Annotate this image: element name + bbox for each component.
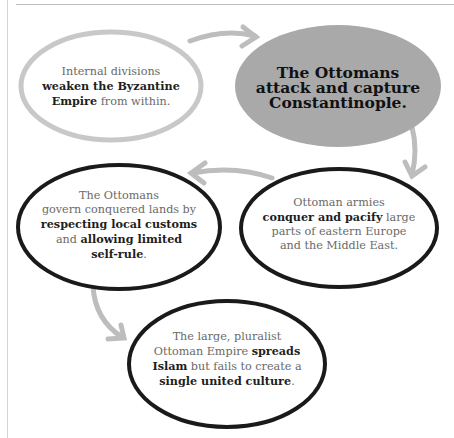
node-5-bold-2: Islam bbox=[152, 359, 187, 373]
node-3-bold-1: conquer and pacify bbox=[263, 210, 383, 224]
node-3-line-2: large bbox=[382, 211, 415, 224]
node-4-bold-2: allowing limited bbox=[80, 232, 182, 246]
node-byzantine-divisions: Internal divisions weaken the Byzantine … bbox=[14, 20, 208, 146]
node-5-bold-3: single united culture bbox=[159, 374, 291, 388]
node-2-line-3: Constantinople. bbox=[269, 93, 407, 112]
node-5-bold-1: spreads bbox=[252, 344, 301, 358]
node-4-bold-3: self-rule bbox=[91, 247, 143, 261]
node-3-line-1: Ottoman armies bbox=[293, 196, 385, 209]
node-4-line-5: . bbox=[143, 248, 147, 261]
node-spreads-islam: The large, pluralist Ottoman Empire spre… bbox=[124, 296, 330, 432]
node-3-line-3: parts of eastern Europe bbox=[272, 225, 407, 238]
node-4-line-4: and bbox=[56, 233, 81, 246]
node-3-line-4: and the Middle East. bbox=[280, 239, 398, 252]
node-4-line-1: The Ottomans bbox=[79, 189, 159, 202]
node-5-line-1: The large, pluralist bbox=[173, 330, 282, 343]
node-5-line-4: . bbox=[291, 375, 295, 388]
node-1-bold-1: weaken the Byzantine bbox=[42, 79, 180, 93]
node-4-bold-1: respecting local customs bbox=[41, 217, 197, 231]
node-5-line-3: but fails to create a bbox=[187, 360, 301, 373]
node-1-bold-2: Empire bbox=[52, 94, 97, 108]
node-5-line-2: Ottoman Empire bbox=[154, 345, 252, 358]
node-capture-constantinople: The Ottomans attack and capture Constant… bbox=[232, 24, 444, 150]
node-1-line-3: from within. bbox=[97, 95, 170, 108]
node-1-line-1: Internal divisions bbox=[62, 65, 161, 78]
node-conquer-pacify: Ottoman armies conquer and pacify large … bbox=[236, 164, 442, 294]
node-4-line-2: govern conquered lands by bbox=[42, 203, 196, 216]
node-govern-lands: The Ottomans govern conquered lands by r… bbox=[12, 160, 226, 294]
